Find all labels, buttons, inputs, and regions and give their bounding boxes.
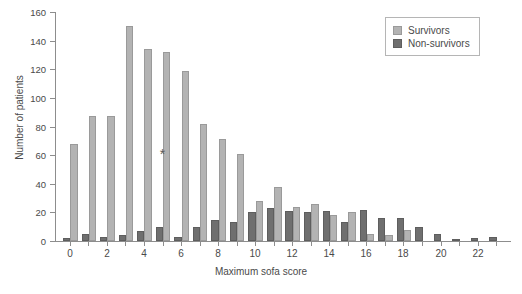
bar-survivors (404, 230, 411, 241)
bar-survivors (200, 124, 207, 241)
y-axis-tick-label: 120 (30, 64, 46, 75)
x-axis-tick-label: 2 (104, 248, 110, 259)
bar-non-survivors (415, 227, 422, 241)
bar-non-survivors (378, 218, 385, 241)
x-axis-tick (385, 241, 386, 246)
y-axis-tick (50, 241, 55, 242)
bar-non-survivors (360, 210, 367, 241)
x-axis-tick-label: 18 (397, 248, 408, 259)
bar-survivors (293, 207, 300, 241)
bar-survivors (89, 116, 96, 241)
x-axis-tick-label: 22 (472, 248, 483, 259)
y-axis-tick-label: 160 (30, 7, 46, 18)
x-axis-tick (218, 241, 219, 246)
x-axis-tick-label: 16 (360, 248, 371, 259)
significance-asterisk: * (160, 149, 165, 159)
bar-non-survivors (137, 231, 144, 241)
x-axis-tick (274, 241, 275, 246)
bar-non-survivors (471, 238, 478, 241)
bar-non-survivors (119, 235, 126, 241)
legend-label-survivors: Survivors (408, 25, 450, 36)
x-axis-tick (163, 241, 164, 246)
x-axis-tick-label: 8 (215, 248, 221, 259)
bar-non-survivors (230, 222, 237, 241)
x-axis-line (55, 241, 511, 242)
bar-non-survivors (82, 234, 89, 241)
x-axis-tick (88, 241, 89, 246)
bar-survivors (274, 187, 281, 241)
bar-survivors (385, 235, 392, 241)
sofa-score-histogram: Number of patients Maximum sofa score 02… (0, 0, 522, 294)
bar-non-survivors (489, 237, 496, 241)
bar-survivors (367, 234, 374, 241)
bar-survivors (256, 201, 263, 241)
x-axis-tick (329, 241, 330, 246)
legend-item-non-survivors: Non-survivors (393, 37, 470, 49)
bar-survivors (311, 204, 318, 241)
bar-non-survivors (285, 211, 292, 241)
x-axis-title: Maximum sofa score (0, 266, 522, 277)
bar-survivors (237, 154, 244, 241)
x-axis-tick (125, 241, 126, 246)
x-axis-tick-label: 4 (141, 248, 147, 259)
bar-non-survivors (323, 211, 330, 241)
x-axis-tick (200, 241, 201, 246)
bar-survivors (219, 139, 226, 241)
legend-item-survivors: Survivors (393, 24, 470, 36)
y-axis-tick-label: 100 (30, 93, 46, 104)
y-axis-tick-label: 140 (30, 36, 46, 47)
bar-survivors (126, 26, 133, 241)
x-axis-tick-label: 14 (323, 248, 334, 259)
x-axis-tick-label: 12 (286, 248, 297, 259)
bar-non-survivors (248, 212, 255, 241)
y-axis-tick-label: 0 (41, 236, 46, 247)
bar-non-survivors (193, 227, 200, 241)
x-axis-tick (348, 241, 349, 246)
bar-non-survivors (174, 237, 181, 241)
bar-non-survivors (304, 212, 311, 241)
bar-survivors (182, 71, 189, 241)
x-axis-tick (107, 241, 108, 246)
x-axis-tick-label: 20 (435, 248, 446, 259)
bar-non-survivors (63, 238, 70, 241)
x-axis-tick-label: 10 (249, 248, 260, 259)
bar-non-survivors (341, 222, 348, 241)
x-axis-tick (459, 241, 460, 246)
x-axis-tick (478, 241, 479, 246)
y-axis-tick-label: 40 (35, 179, 46, 190)
legend-swatch-survivors-icon (393, 26, 402, 35)
bar-non-survivors (156, 227, 163, 241)
legend-swatch-non-survivors-icon (393, 39, 402, 48)
x-axis-tick-label: 0 (67, 248, 73, 259)
y-axis-tick-label: 60 (35, 150, 46, 161)
bar-survivors (107, 116, 114, 241)
x-axis-tick (237, 241, 238, 246)
x-axis-tick (366, 241, 367, 246)
bar-non-survivors (100, 237, 107, 241)
x-axis-tick (441, 241, 442, 246)
x-axis-tick (496, 241, 497, 246)
chart-legend: Survivors Non-survivors (385, 17, 480, 56)
legend-label-non-survivors: Non-survivors (408, 38, 470, 49)
x-axis-tick (422, 241, 423, 246)
bar-non-survivors (434, 234, 441, 241)
x-axis-tick (403, 241, 404, 246)
bar-non-survivors (267, 208, 274, 241)
bar-survivors (348, 212, 355, 241)
x-axis-tick (311, 241, 312, 246)
bar-survivors (330, 215, 337, 241)
x-axis-tick-label: 6 (178, 248, 184, 259)
bar-survivors (70, 144, 77, 241)
x-axis-tick (292, 241, 293, 246)
bar-non-survivors (452, 239, 459, 241)
bar-non-survivors (397, 218, 404, 241)
bar-non-survivors (211, 220, 218, 241)
x-axis-tick (70, 241, 71, 246)
y-axis-tick-labels: 020406080100120140160 (0, 12, 55, 242)
x-axis-tick (144, 241, 145, 246)
y-axis-tick-label: 20 (35, 207, 46, 218)
y-axis-tick-label: 80 (35, 122, 46, 133)
bar-survivors (144, 49, 151, 241)
x-axis-tick (255, 241, 256, 246)
x-axis-tick (181, 241, 182, 246)
